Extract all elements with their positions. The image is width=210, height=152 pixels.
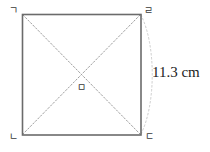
vertex-label-center: ㅁ xyxy=(77,82,86,93)
vertex-label-bottom-right: ㄷ xyxy=(145,131,154,142)
vertex-label-bottom-left: ㄴ xyxy=(9,131,18,142)
vertex-label-top-left: ㄱ xyxy=(9,5,18,16)
geometry-figure: ㄱ ㄹ ㄴ ㄷ ㅁ 11.3 cm xyxy=(0,0,210,152)
vertex-label-top-right: ㄹ xyxy=(144,5,153,16)
side-length-measure-label: 11.3 cm xyxy=(152,64,200,81)
side-length-arc xyxy=(141,15,152,134)
